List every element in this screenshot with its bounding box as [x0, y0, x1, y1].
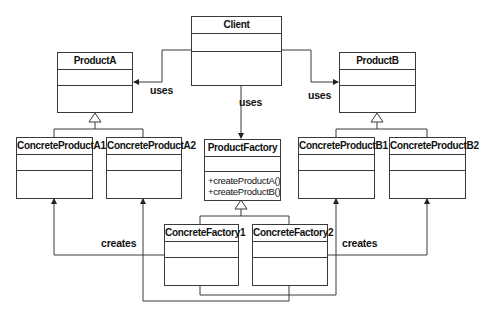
label-creates-right: creates	[342, 237, 377, 249]
class-name: ProductA	[58, 53, 132, 70]
attributes-compartment	[390, 155, 465, 171]
class-name: Client	[192, 17, 281, 34]
class-name: ConcreteProductB2	[390, 138, 465, 155]
client-uses-producta-line	[134, 50, 191, 82]
attributes-compartment	[205, 157, 280, 172]
generalization-factory-line	[200, 216, 289, 224]
attributes-compartment	[165, 242, 238, 258]
operation-create-product-a: +createProductA()	[208, 175, 280, 186]
class-name: ConcreteProductB1	[299, 138, 374, 155]
class-name: ConcreteFactory2	[253, 225, 327, 242]
inheritance-triangle-factory	[235, 200, 247, 209]
class-productfactory[interactable]: ProductFactory +createProductA() +create…	[204, 139, 281, 201]
class-name: ProductFactory	[205, 140, 280, 157]
label-creates-left: creates	[101, 237, 136, 249]
class-name: ConcreteFactory1	[165, 225, 238, 242]
inheritance-triangle-a	[89, 113, 101, 122]
attributes-compartment	[107, 155, 181, 171]
operation-create-product-b: +createProductB()	[208, 186, 280, 197]
class-name: ProductB	[340, 53, 415, 70]
attributes-compartment	[192, 34, 281, 52]
label-uses-right: uses	[308, 89, 331, 101]
class-concretefactory1[interactable]: ConcreteFactory1	[164, 224, 239, 286]
attributes-compartment	[17, 155, 92, 171]
label-uses-center: uses	[239, 96, 262, 108]
class-productb[interactable]: ProductB	[339, 52, 416, 113]
client-uses-productb-line	[281, 50, 338, 82]
inheritance-triangle-b	[371, 113, 383, 122]
class-name: ConcreteProductA2	[107, 138, 181, 155]
class-client[interactable]: Client	[191, 16, 282, 86]
class-concretefactory2[interactable]: ConcreteFactory2	[252, 224, 328, 286]
class-concreteproductb1[interactable]: ConcreteProductB1	[298, 137, 375, 199]
operations-compartment: +createProductA() +createProductB()	[205, 172, 280, 197]
attributes-compartment	[253, 242, 327, 258]
generalization-b-line	[336, 129, 427, 137]
label-uses-left: uses	[150, 84, 173, 96]
attributes-compartment	[58, 70, 132, 86]
generalization-a-line	[54, 129, 143, 137]
class-name: ConcreteProductA1	[17, 138, 92, 155]
class-producta[interactable]: ProductA	[57, 52, 133, 113]
class-concreteproductb2[interactable]: ConcreteProductB2	[389, 137, 466, 199]
class-concreteproducta2[interactable]: ConcreteProductA2	[106, 137, 182, 199]
attributes-compartment	[340, 70, 415, 86]
class-concreteproducta1[interactable]: ConcreteProductA1	[16, 137, 93, 199]
attributes-compartment	[299, 155, 374, 171]
